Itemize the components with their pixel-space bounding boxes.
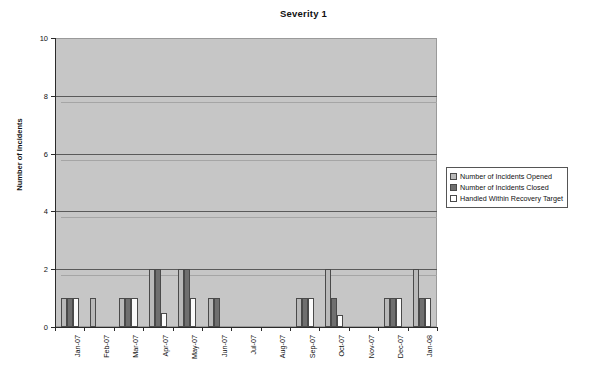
x-tick-mark (143, 327, 144, 331)
gridline-back (61, 275, 437, 276)
x-tick-mark (261, 327, 262, 331)
bar-handled (308, 298, 314, 327)
x-tick-label: Dec-07 (396, 335, 405, 358)
bar-handled (396, 298, 402, 327)
x-tick-label: Aug-07 (278, 335, 287, 358)
legend-swatch-icon (450, 195, 457, 202)
x-tick-mark (114, 327, 115, 331)
x-tick-mark (437, 327, 438, 331)
bar-opened (149, 269, 155, 327)
x-tick-mark (173, 327, 174, 331)
bar-closed (214, 298, 220, 327)
bar-closed (302, 298, 308, 327)
bar-handled (131, 298, 137, 327)
y-tick-mark (51, 269, 55, 270)
y-tick-label: 4 (24, 207, 48, 216)
bar-handled (190, 298, 196, 327)
legend-label: Number of Incidents Closed (460, 182, 549, 193)
legend-label: Number of Incidents Opened (460, 171, 552, 182)
gridline (55, 154, 437, 155)
gridline-back (61, 217, 437, 218)
y-tick-mark (51, 154, 55, 155)
bar-closed (155, 269, 161, 327)
bar-opened (61, 298, 67, 327)
x-tick-mark (55, 327, 56, 331)
x-tick-mark (84, 327, 85, 331)
bar-opened (178, 269, 184, 327)
x-tick-label: Jan-07 (73, 335, 82, 357)
y-tick-label: 2 (24, 265, 48, 274)
y-tick-label: 8 (24, 91, 48, 100)
x-tick-mark (319, 327, 320, 331)
y-tick-mark (51, 38, 55, 39)
chart-legend: Number of Incidents Opened Number of Inc… (446, 167, 568, 208)
x-tick-label: Jan-08 (425, 335, 434, 357)
bar-handled (161, 313, 167, 327)
bar-closed (67, 298, 73, 327)
legend-swatch-icon (450, 173, 457, 180)
plot-background (55, 38, 437, 327)
x-tick-label: May-07 (190, 335, 199, 359)
gridline (55, 96, 437, 97)
x-tick-label: Nov-07 (367, 335, 376, 358)
bar-opened (384, 298, 390, 327)
bar-opened (413, 269, 419, 327)
legend-swatch-icon (450, 184, 457, 191)
bar-opened (119, 298, 125, 327)
bar-closed (125, 298, 131, 327)
bar-handled (425, 298, 431, 327)
legend-label: Handled Within Recovery Target (460, 193, 563, 204)
x-axis-line (55, 327, 438, 328)
bar-opened (90, 298, 96, 327)
gridline (55, 211, 437, 212)
bar-opened (325, 269, 331, 327)
bar-closed (419, 298, 425, 327)
x-tick-mark (378, 327, 379, 331)
x-tick-mark (231, 327, 232, 331)
x-tick-label: Feb-07 (102, 335, 111, 358)
x-tick-label: Jul-07 (249, 335, 258, 355)
gridline-back (61, 102, 437, 103)
bar-opened (208, 298, 214, 327)
x-tick-label: Mar-07 (131, 335, 140, 358)
x-tick-label: Sep-07 (308, 335, 317, 358)
bar-opened (296, 298, 302, 327)
x-tick-label: Apr-07 (161, 335, 170, 357)
bar-handled (73, 298, 79, 327)
bar-closed (184, 269, 190, 327)
gridline-back (61, 160, 437, 161)
legend-item-opened: Number of Incidents Opened (450, 171, 563, 182)
y-tick-mark (51, 96, 55, 97)
x-tick-label: Oct-07 (337, 335, 346, 357)
x-tick-mark (202, 327, 203, 331)
y-axis-line (55, 38, 56, 328)
bar-closed (331, 298, 337, 327)
x-tick-mark (408, 327, 409, 331)
y-axis-title: Number of Incidents (15, 95, 24, 215)
gridline (55, 269, 437, 270)
y-tick-label: 10 (24, 34, 48, 43)
x-tick-mark (349, 327, 350, 331)
bar-closed (390, 298, 396, 327)
legend-item-closed: Number of Incidents Closed (450, 182, 563, 193)
bar-handled (337, 315, 343, 327)
y-tick-label: 0 (24, 323, 48, 332)
x-tick-label: Jun-07 (220, 335, 229, 357)
x-tick-mark (290, 327, 291, 331)
y-tick-label: 6 (24, 149, 48, 158)
y-tick-mark (51, 211, 55, 212)
legend-item-handled: Handled Within Recovery Target (450, 193, 563, 204)
